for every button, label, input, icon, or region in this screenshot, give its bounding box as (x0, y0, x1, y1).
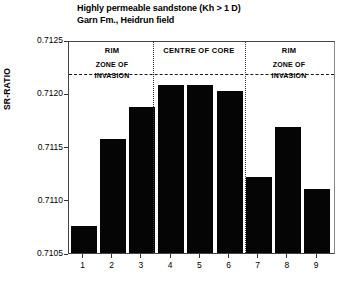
x-tick-mark (170, 254, 171, 258)
x-tick-mark (316, 254, 317, 258)
x-tick-label: 9 (306, 260, 326, 270)
y-axis-label: SR-RATIO (2, 44, 12, 134)
chart-title: Highly permeable sandstone (Kh > 1 D) Ga… (77, 3, 337, 26)
x-tick-label: 7 (248, 260, 268, 270)
x-tick-mark (286, 254, 287, 258)
bar-5 (187, 85, 213, 253)
x-axis-ticks: 1 2 3 4 5 6 7 8 (68, 254, 335, 274)
x-tick-label: 4 (160, 260, 180, 270)
x-tick-mark (140, 254, 141, 258)
x-tick-label: 3 (131, 260, 151, 270)
zone-divider-left (153, 42, 154, 253)
y-tick-label: 0.7115 (38, 142, 63, 152)
x-tick-mark (199, 254, 200, 258)
y-tick-label: 0.7125 (37, 35, 63, 45)
bar-2 (100, 139, 126, 253)
chart-title-line-1: Highly permeable sandstone (Kh > 1 D) (77, 3, 337, 15)
reference-line (69, 74, 334, 75)
x-tick-mark (82, 254, 83, 258)
bar-4 (158, 85, 184, 253)
chart-title-line-2: Garn Fm., Heidrun field (77, 15, 337, 27)
x-tick-mark (111, 254, 112, 258)
zone-divider-right (245, 42, 246, 253)
bar-6 (217, 91, 243, 253)
x-tick-label: 8 (277, 260, 297, 270)
plot-area: RIM ZONE OF INVASION CENTRE OF CORE RIM … (68, 41, 335, 254)
bar-9 (304, 189, 330, 253)
bar-8 (275, 127, 301, 253)
y-tick-label: 0.7110 (38, 195, 63, 205)
x-tick-mark (228, 254, 229, 258)
x-tick-label: 6 (219, 260, 239, 270)
bar-3 (129, 107, 155, 253)
x-tick-mark (257, 254, 258, 258)
bar-1 (71, 226, 97, 254)
x-tick-label: 1 (73, 260, 93, 270)
chart-figure: Highly permeable sandstone (Kh > 1 D) Ga… (0, 0, 353, 295)
bar-7 (246, 177, 272, 253)
x-tick-label: 2 (102, 260, 122, 270)
y-tick-label: 0.7120 (37, 88, 63, 98)
x-tick-label: 5 (189, 260, 209, 270)
y-tick-label: 0.7105 (37, 248, 63, 258)
